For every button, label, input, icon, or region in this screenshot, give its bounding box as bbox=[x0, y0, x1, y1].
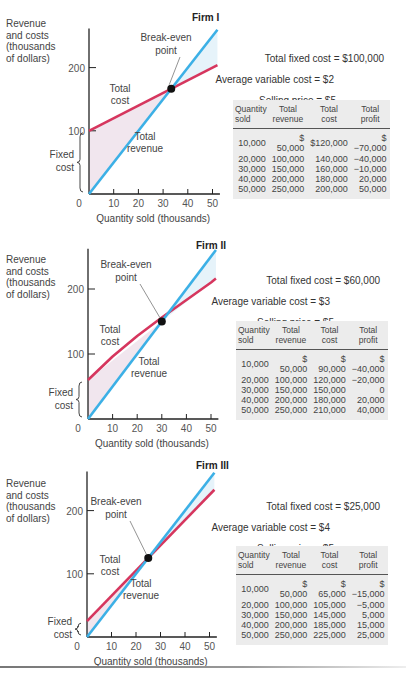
x-tick-label: 10 bbox=[106, 641, 118, 652]
total-revenue-label: revenue bbox=[123, 590, 160, 601]
fixed-cost-label: Fixed bbox=[48, 616, 72, 627]
table-header-cell: Quantitysold bbox=[236, 546, 272, 575]
table-cell: $−15,000 bbox=[349, 575, 388, 600]
break-even-leader bbox=[130, 521, 146, 554]
table-cell: 200,000 bbox=[272, 620, 311, 630]
table-cell: 20,000 bbox=[236, 600, 272, 610]
profit-table: QuantitysoldTotalrevenueTotalcostTotalpr… bbox=[236, 546, 388, 645]
header-text: revenue bbox=[274, 560, 309, 570]
x-tick-label: 50 bbox=[204, 641, 216, 652]
header-text: Quantity bbox=[238, 550, 270, 560]
header-text: Total bbox=[274, 550, 309, 560]
table-cell: 225,000 bbox=[310, 630, 349, 644]
table-cell: 40,000 bbox=[236, 620, 272, 630]
table-header-cell: Totalprofit bbox=[349, 546, 388, 575]
table-row: 10,000$ 50,000$ 65,000$−15,000 bbox=[236, 575, 388, 600]
bottom-rule bbox=[0, 666, 406, 668]
header-text: Total bbox=[351, 550, 386, 560]
header-text: cost bbox=[312, 560, 347, 570]
header-text: sold bbox=[238, 560, 270, 570]
x-tick-label: 0 bbox=[74, 641, 80, 652]
table-row: 30,000150,000145,0005,000 bbox=[236, 610, 388, 620]
table-cell: 150,000 bbox=[272, 610, 311, 620]
y-tick-label: 200 bbox=[66, 506, 83, 517]
table-header-cell: Totalcost bbox=[310, 546, 349, 575]
header-text: Total bbox=[312, 550, 347, 560]
table-cell: 185,000 bbox=[310, 620, 349, 630]
table-cell: −5,000 bbox=[349, 600, 388, 610]
table-cell: 145,000 bbox=[310, 610, 349, 620]
fixed-cost-brace bbox=[75, 623, 81, 635]
y-tick-label: 100 bbox=[66, 569, 83, 580]
table-cell: 50,000 bbox=[236, 630, 272, 644]
fixed-cost-label: cost bbox=[54, 629, 73, 640]
table-header-cell: Totalrevenue bbox=[272, 546, 311, 575]
table-cell: 250,000 bbox=[272, 630, 311, 644]
total-cost-label: cost bbox=[101, 566, 120, 577]
table-cell: 25,000 bbox=[349, 630, 388, 644]
table-cell: 5,000 bbox=[349, 610, 388, 620]
break-even-label: Break-even bbox=[90, 496, 141, 507]
average-variable-cost: Average variable cost = $4 bbox=[211, 517, 330, 538]
table-cell: 105,000 bbox=[310, 600, 349, 610]
x-tick-label: 20 bbox=[130, 641, 142, 652]
table-cell: 15,000 bbox=[349, 620, 388, 630]
header-text: profit bbox=[351, 560, 386, 570]
table-cell: $ 50,000 bbox=[272, 575, 311, 600]
break-even-point bbox=[144, 554, 152, 562]
table-header-row: QuantitysoldTotalrevenueTotalcostTotalpr… bbox=[236, 546, 388, 575]
table-row: 50,000250,000225,00025,000 bbox=[236, 630, 388, 644]
table-row: 40,000200,000185,00015,000 bbox=[236, 620, 388, 630]
table-cell: 10,000 bbox=[236, 575, 272, 600]
total-revenue-label: Total bbox=[130, 578, 151, 589]
table-cell: 100,000 bbox=[272, 600, 311, 610]
table-cell: $ 65,000 bbox=[310, 575, 349, 600]
table-row: 20,000100,000105,000−5,000 bbox=[236, 600, 388, 610]
table-cell: 30,000 bbox=[236, 610, 272, 620]
total-fixed-cost: Total fixed cost = $25,000 bbox=[211, 496, 380, 517]
total-cost-label: Total bbox=[99, 554, 120, 565]
x-tick-label: 40 bbox=[179, 641, 191, 652]
break-even-label: point bbox=[105, 509, 127, 520]
x-tick-label: 30 bbox=[155, 641, 167, 652]
